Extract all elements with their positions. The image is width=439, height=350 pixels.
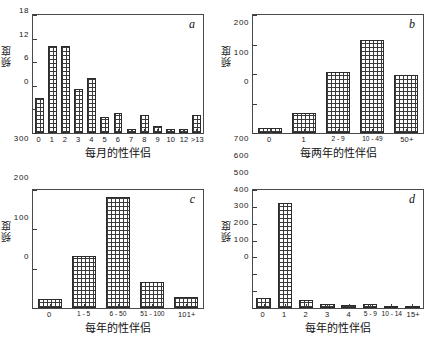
x-tick-mark <box>50 304 51 308</box>
x-tick-label: 51 - 100 <box>135 311 169 319</box>
y-tick-mark <box>253 15 257 16</box>
y-tick-mark <box>253 133 257 134</box>
y-tick-mark <box>253 241 257 242</box>
x-tick-mark <box>412 304 413 308</box>
plot-frame-d: d 0100200300400500600700 <box>252 189 424 309</box>
bar-slot <box>98 15 111 133</box>
x-tick-label: 3 <box>317 311 339 319</box>
y-tick-label: 200 <box>3 174 33 182</box>
bar-slot <box>169 190 203 308</box>
y-tick-label: 400 <box>223 186 253 194</box>
x-tick-label: 4 <box>85 136 98 144</box>
x-tick-mark <box>92 129 93 133</box>
bar <box>87 78 96 133</box>
y-tick-mark <box>253 257 257 258</box>
x-tick-mark <box>186 304 187 308</box>
y-tick-label: 6 <box>3 54 33 62</box>
x-tick-mark <box>391 304 392 308</box>
x-tick-mark <box>118 129 119 133</box>
x-axis-labels-a: 01234567891012>13 <box>32 136 204 144</box>
y-tick-label: 100 <box>223 236 253 244</box>
x-tick-label: 0 <box>252 136 286 144</box>
bar-slot <box>389 15 423 133</box>
bar-slot <box>151 15 164 133</box>
plot-area-a <box>33 15 203 133</box>
x-tick-mark <box>157 129 158 133</box>
bar-series-a <box>33 15 203 133</box>
x-tick-label: 10 - 14 <box>381 311 403 319</box>
x-tick-label: 9 <box>151 136 164 144</box>
y-tick-mark <box>33 109 37 110</box>
bar-series-c <box>33 190 203 308</box>
y-tick-label: 0 <box>223 253 253 261</box>
x-tick-label: 2 <box>295 311 317 319</box>
bar-slot <box>164 15 177 133</box>
x-tick-label: 3 <box>72 136 85 144</box>
x-tick-mark <box>370 304 371 308</box>
y-tick-label: 200 <box>223 19 253 27</box>
y-tick-label: 700 <box>223 135 253 143</box>
panel-b: 频度 b 0100200300400 012 - 910 - 4950+ 每两年… <box>220 0 439 175</box>
y-tick-mark <box>33 39 37 40</box>
bar-slot <box>338 190 359 308</box>
y-tick-label: 500 <box>223 169 253 177</box>
figure-multi-panel-bar-charts: 频度 a 0612182430 01234567891012>13 每月的性伴侣… <box>0 0 439 350</box>
bar <box>394 75 417 133</box>
bar-slot <box>402 190 423 308</box>
x-axis-title-c: 每年的性伴侣 <box>32 323 204 334</box>
x-tick-mark <box>84 304 85 308</box>
bar-slot <box>46 15 59 133</box>
y-tick-mark <box>33 190 37 191</box>
bar-slot <box>111 15 124 133</box>
y-tick-label: 18 <box>3 7 33 15</box>
bar-series-d <box>253 190 423 308</box>
x-axis-labels-c: 01 - 56 - 5051 - 100101+ <box>32 311 204 319</box>
x-tick-mark <box>170 129 171 133</box>
x-tick-label: 7 <box>125 136 138 144</box>
y-tick-label: 100 <box>223 49 253 57</box>
bar-slot <box>33 190 67 308</box>
bar-slot <box>177 15 190 133</box>
x-tick-mark <box>144 129 145 133</box>
x-tick-mark <box>372 129 373 133</box>
y-tick-mark <box>33 15 37 16</box>
bar-slot <box>125 15 138 133</box>
y-tick-mark <box>253 291 257 292</box>
x-tick-mark <box>304 129 305 133</box>
panel-c: 频度 c 0100200300 01 - 56 - 5051 - 100101+… <box>0 175 219 350</box>
y-tick-label: 0 <box>3 253 33 261</box>
x-tick-mark <box>270 129 271 133</box>
bar <box>72 256 95 308</box>
bar <box>48 46 57 133</box>
x-tick-label: 10 <box>164 136 177 144</box>
x-tick-label: 2 <box>58 136 71 144</box>
bar <box>61 46 70 133</box>
x-tick-mark <box>183 129 184 133</box>
x-tick-mark <box>406 129 407 133</box>
plot-area-b <box>253 15 423 133</box>
y-tick-label: 100 <box>3 214 33 222</box>
y-tick-label: 200 <box>223 219 253 227</box>
x-tick-label: 5 - 9 <box>360 311 382 319</box>
x-axis-title-b: 每两年的性伴侣 <box>252 148 424 159</box>
x-axis-labels-b: 012 - 910 - 4950+ <box>252 136 424 144</box>
x-tick-label: 1 <box>286 136 320 144</box>
x-tick-mark <box>349 304 350 308</box>
x-tick-label: 1 <box>274 311 296 319</box>
y-tick-mark <box>253 190 257 191</box>
bar-slot <box>67 190 101 308</box>
x-tick-label: 6 <box>111 136 124 144</box>
y-tick-mark <box>253 224 257 225</box>
x-tick-mark <box>118 304 119 308</box>
y-tick-mark <box>33 133 37 134</box>
y-tick-mark <box>253 207 257 208</box>
y-axis-title-c: 频度 <box>2 220 12 242</box>
x-tick-mark <box>285 304 286 308</box>
x-tick-mark <box>327 304 328 308</box>
x-tick-label: 50+ <box>390 136 424 144</box>
y-tick-mark <box>33 308 37 309</box>
x-tick-label: 0 <box>252 311 274 319</box>
bar-slot <box>296 190 317 308</box>
x-tick-mark <box>306 304 307 308</box>
plot-area-c <box>33 190 203 308</box>
